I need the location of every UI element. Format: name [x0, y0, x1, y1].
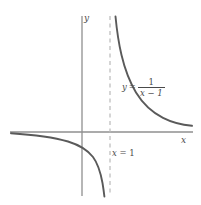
denominator-operator: − [145, 88, 158, 98]
y-axis-label: y [84, 14, 89, 23]
asymptote-annotation: x = 1 [112, 149, 135, 158]
x-axis-label: x [181, 136, 186, 145]
fraction-numerator: 1 [146, 78, 157, 87]
fraction-denominator: x − 1 [138, 88, 165, 98]
function-annotation: y = 1 x − 1 [122, 78, 165, 97]
denominator-constant: 1 [157, 88, 162, 98]
function-left-side: y [122, 83, 127, 92]
graph-canvas [0, 0, 201, 205]
asymptote-value: 1 [129, 148, 134, 158]
asymptote-equals: = [117, 148, 130, 158]
curve-right-branch [116, 17, 193, 126]
function-equals-sign: = [129, 83, 136, 92]
function-fraction: 1 x − 1 [138, 78, 165, 97]
curve-left-branch [11, 133, 104, 196]
figure-container: y x x = 1 y = 1 x − 1 [0, 0, 201, 205]
